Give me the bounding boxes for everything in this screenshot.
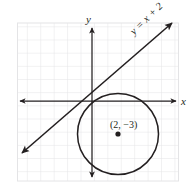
graph-figure: y x y = x + 2 (2, −3) <box>0 0 195 195</box>
grid <box>18 23 179 181</box>
axis-label-y: y <box>86 14 91 25</box>
center-point-label: (2, −3) <box>110 120 137 130</box>
circle-center-dot <box>115 131 120 136</box>
graph-canvas <box>0 0 195 195</box>
axis-label-x: x <box>181 96 186 107</box>
